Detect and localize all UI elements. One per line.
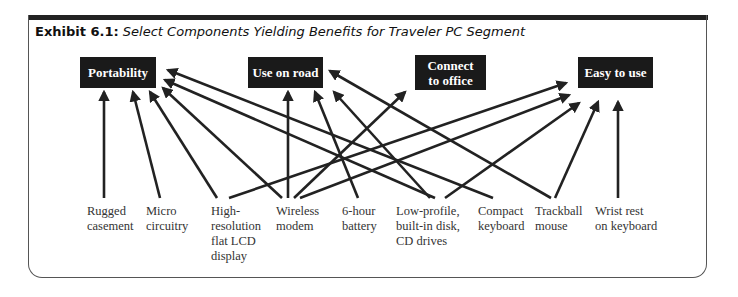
- component-label-micro-circuitry: Micro circuitry: [146, 204, 188, 234]
- component-label-wrist-rest: Wrist rest on keyboard: [595, 204, 657, 234]
- component-label-wireless-modem: Wireless modem: [276, 204, 319, 234]
- arrow-links: [0, 0, 738, 297]
- component-label-battery: 6-hour battery: [342, 204, 377, 234]
- component-label-high-res-lcd: High- resolution flat LCD display: [211, 204, 261, 264]
- component-label-compact-keyboard: Compact keyboard: [478, 204, 525, 234]
- component-label-trackball-mouse: Trackball mouse: [535, 204, 582, 234]
- component-label-rugged-casement: Rugged casement: [87, 204, 134, 234]
- component-label-low-profile-drives: Low-profile, built-in disk, CD drives: [396, 204, 460, 249]
